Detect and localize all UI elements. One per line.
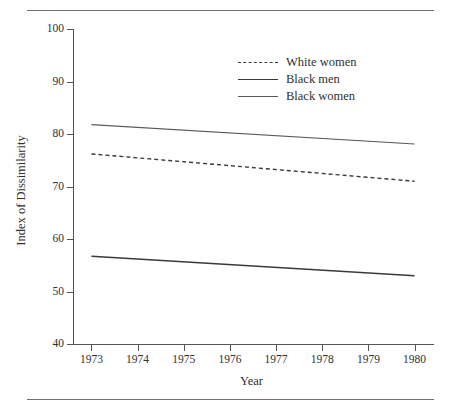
x-axis-tick [276,345,277,351]
legend-line-swatch-icon [238,58,278,68]
y-axis-tick [67,82,73,83]
x-axis-tick [138,345,139,351]
chart-legend: White womenBlack menBlack women [238,54,398,105]
y-axis-tick-label: 80 [24,128,64,140]
x-axis-tick-label: 1980 [392,353,438,365]
y-axis-tick-label: 90 [24,76,64,88]
legend-item-label: Black women [286,90,355,103]
x-axis-tick [91,345,92,351]
series-line-white-women [91,154,414,181]
y-axis-tick [67,134,73,135]
y-axis-title: Index of Dissimilarity [14,91,29,291]
x-axis-line [73,344,434,345]
x-axis-tick [184,345,185,351]
legend-line-swatch-icon [238,75,278,85]
x-axis-tick [415,345,416,351]
x-axis-tick-label: 1976 [207,353,253,365]
x-axis-tick-label: 1978 [299,353,345,365]
y-axis-tick [67,239,73,240]
x-axis-tick-label: 1979 [345,353,391,365]
legend-item-label: Black men [286,73,340,86]
x-axis-title-text: Year [198,374,263,388]
y-axis-tick-label: 60 [24,233,64,245]
legend-line-swatch-icon [238,92,278,102]
legend-item[interactable]: White women [238,54,398,71]
x-axis-tick-label: 1977 [253,353,299,365]
x-axis-tick [368,345,369,351]
x-axis-title: Year [0,374,461,389]
y-axis-tick [67,29,73,30]
legend-item-label: White women [286,56,356,69]
x-axis-tick-label: 1973 [68,353,114,365]
y-axis-tick-label: 100 [24,23,64,35]
figure-bottom-rule [27,399,434,400]
y-axis-tick-label: 70 [24,181,64,193]
figure-panel: 405060708090100 White womenBlack menBlac… [0,0,461,413]
x-axis-tick-label: 1974 [115,353,161,365]
x-axis-tick [322,345,323,351]
y-axis-tick-label: 50 [24,286,64,298]
figure-top-rule [27,10,434,11]
legend-item[interactable]: Black women [238,88,398,105]
x-axis-tick-label: 1975 [161,353,207,365]
y-axis-tick [67,292,73,293]
y-axis-tick [67,187,73,188]
y-axis-tick-label: 40 [24,338,64,350]
x-axis-tick [230,345,231,351]
legend-item[interactable]: Black men [238,71,398,88]
series-line-black-women [91,125,414,144]
y-axis-tick [67,344,73,345]
series-line-black-men [91,256,414,275]
